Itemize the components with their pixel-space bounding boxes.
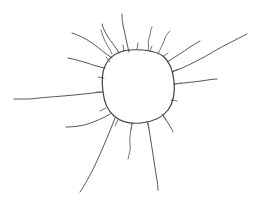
ray-upper-right-mid xyxy=(167,41,200,62)
ray-lower-right-short xyxy=(163,116,173,132)
sun-disc xyxy=(102,50,174,123)
rim-tick-bottom-2 xyxy=(131,124,132,130)
ray-upper-right-squiggle xyxy=(158,31,170,54)
rim-tick-bottom-3 xyxy=(115,120,118,126)
sun-body-group xyxy=(102,50,174,123)
rim-tick-left-2 xyxy=(98,77,104,78)
ray-left-horizontal-long xyxy=(14,92,103,99)
ray-top-left-wavy xyxy=(102,24,119,53)
ray-bottom-right-long xyxy=(148,123,158,190)
ray-upper-left-long xyxy=(72,33,112,58)
ray-bottom-left-long xyxy=(80,118,115,192)
rim-tick-lower-left xyxy=(100,108,106,111)
rim-tick-top-1 xyxy=(123,45,124,51)
rim-tick-top-3 xyxy=(150,46,152,51)
rim-tick-top-2 xyxy=(137,43,138,49)
drawing-canvas xyxy=(0,0,261,200)
ray-upper-right-longest xyxy=(172,34,247,72)
ray-lower-left-short xyxy=(66,114,110,127)
ray-left-upper-bent xyxy=(68,58,105,68)
sun-rays-group xyxy=(14,14,247,192)
sun-sketch-svg xyxy=(0,0,261,200)
rim-tick-right-3 xyxy=(171,100,177,101)
